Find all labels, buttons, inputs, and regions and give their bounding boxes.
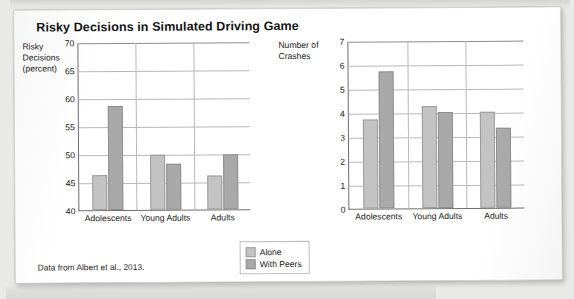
legend-swatch-with-peers [246,259,256,269]
gridline [349,65,524,67]
bar-alone-adults [207,176,222,210]
bar-alone-adults [480,112,496,208]
scanned-figure-container: Risky Decisions in Simulated Driving Gam… [0,0,574,299]
legend-label-with-peers: With Peers [260,258,302,268]
bar-with-peers-adolescents [378,72,394,209]
x-axis-tick-label: Adults [211,212,235,222]
bar-alone-young-adults [421,106,437,208]
y-axis-tick-label: 3 [340,133,345,143]
x-axis-tick-label: Adolescents [355,211,402,221]
y-axis-tick-label: 60 [65,94,75,104]
group-separator [466,41,468,208]
y-axis-tick-label: 40 [66,206,76,216]
gridline [78,42,249,44]
bar-alone-young-adults [150,155,165,210]
bar-with-peers-young-adults [437,112,453,208]
legend-swatch-alone [246,247,256,257]
plot-area-number-of-crashes: 01234567AdolescentsYoung AdultsAdults [347,41,524,210]
y-axis-title-line: Decisions [22,53,59,64]
bar-with-peers-adults [496,127,511,207]
plot-area-risky-decisions: 40455055606570AdolescentsYoung AdultsAdu… [77,42,250,211]
y-axis-title-risky-decisions: RiskyDecisions(percent) [22,41,59,75]
x-axis-tick-label: Young Adults [140,213,190,223]
gridline [79,70,250,72]
chart-legend: Alone With Peers [240,241,310,274]
legend-item-alone: Alone [246,246,302,257]
y-axis-title-line: Risky [22,41,59,52]
y-axis-tick-label: 2 [340,157,345,167]
gridline [79,98,250,100]
x-axis-tick-label: Young Adults [412,211,462,221]
y-axis-title-line: Crashes [278,51,318,62]
y-axis-tick-label: 6 [340,61,345,71]
bar-alone-adolescents [363,120,379,209]
bar-with-peers-adolescents [108,106,124,210]
y-axis-tick-label: 70 [65,38,75,48]
y-axis-tick-label: 50 [65,150,75,160]
y-axis-tick-label: 0 [341,205,346,215]
bar-with-peers-young-adults [166,164,181,210]
bar-alone-adolescents [92,175,107,210]
bar-with-peers-adults [223,154,238,209]
gridline [348,41,523,43]
y-axis-tick-label: 65 [65,66,75,76]
figure-title: Risky Decisions in Simulated Driving Gam… [36,19,299,35]
y-axis-tick-label: 45 [66,178,76,188]
x-axis-tick-label: Adolescents [85,213,132,223]
legend-item-with-peers: With Peers [246,258,302,269]
figure-card: Risky Decisions in Simulated Driving Gam… [13,6,563,283]
gridline [79,126,250,128]
y-axis-tick-label: 7 [340,37,345,47]
y-axis-title-line: Number of [278,40,318,51]
source-note: Data from Albert et al., 2013. [38,262,145,273]
y-axis-title-number-of-crashes: Number ofCrashes [278,40,318,63]
y-axis-tick-label: 55 [65,122,75,132]
group-separator [407,41,409,208]
y-axis-title-line: (percent) [23,64,60,75]
y-axis-tick-label: 1 [340,181,345,191]
x-axis-tick-label: Adults [484,211,508,221]
y-axis-tick-label: 4 [340,109,345,119]
gridline [349,89,524,91]
y-axis-tick-label: 5 [340,85,345,95]
scan-edge-shadow-bottom [6,284,436,299]
legend-label-alone: Alone [260,247,282,257]
